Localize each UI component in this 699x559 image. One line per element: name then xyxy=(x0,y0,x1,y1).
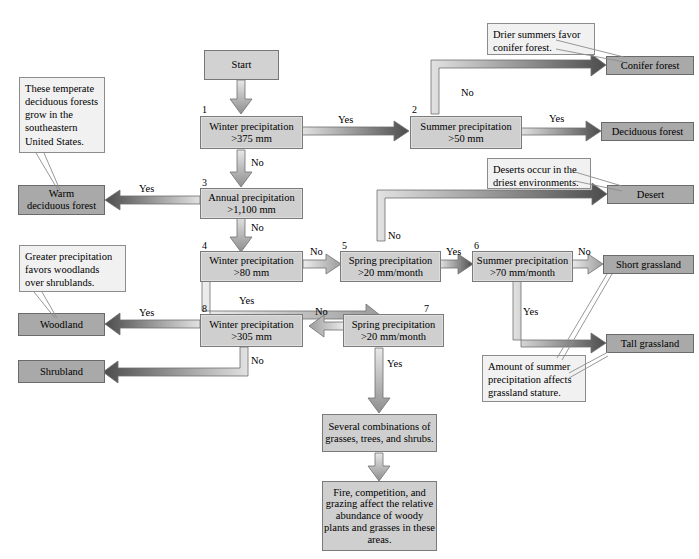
edge-label-d3-no: No xyxy=(251,222,264,233)
edge-label-d3-yes: Yes xyxy=(139,183,154,194)
edge-label-d7-yes: Yes xyxy=(387,358,402,369)
leader-grassland-tall-a xyxy=(569,352,608,373)
edge-label-d1-yes: Yes xyxy=(338,114,353,125)
leader-conifer-a xyxy=(556,40,624,57)
edge-label-d8-no: No xyxy=(251,355,264,366)
edge-label-d6-yes: Yes xyxy=(523,306,538,317)
edge-label-d1-no: No xyxy=(251,157,264,168)
leader-desert-b xyxy=(575,181,622,191)
edge-label-d8-yes: Yes xyxy=(139,307,154,318)
edge-label-d4-yes: Yes xyxy=(239,295,254,306)
edge-label-d6-no: No xyxy=(578,246,591,257)
callout-leader-layer xyxy=(0,0,699,559)
edge-label-d5-yes: Yes xyxy=(446,246,461,257)
leader-conifer-b xyxy=(556,49,624,62)
leader-desert-a xyxy=(575,172,622,186)
leader-grassland-short-b xyxy=(562,274,612,360)
leader-grassland-short-a xyxy=(557,274,607,358)
leader-temperate-deciduous-a xyxy=(36,153,58,190)
edge-label-d4-no: No xyxy=(310,246,323,257)
flowchart-canvas: Start 1 Winter precipitation >375 mm 2 S… xyxy=(0,0,699,559)
edge-label-d2-yes: Yes xyxy=(549,113,564,124)
edge-label-d5-no: No xyxy=(388,230,401,241)
edge-label-d7-no: No xyxy=(315,306,328,317)
edge-label-d2-no: No xyxy=(461,87,474,98)
leader-temperate-deciduous-b xyxy=(44,153,60,190)
leader-grassland-tall-b xyxy=(569,356,608,378)
